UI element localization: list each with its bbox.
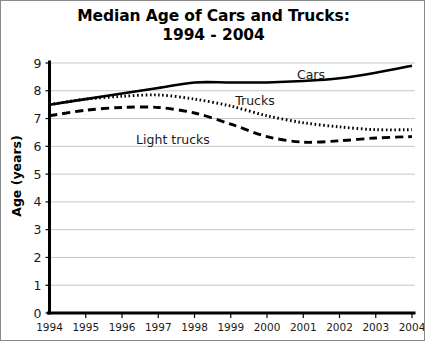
x-tick-label: 1995 <box>72 321 99 333</box>
x-tick-label: 1999 <box>217 321 244 333</box>
y-tick-label: 7 <box>34 111 42 126</box>
series-line-light-trucks <box>50 107 413 142</box>
y-axis-title: Age (years) <box>9 135 24 217</box>
x-tick-label: 1998 <box>181 321 208 333</box>
x-tick-label: 2004 <box>399 321 425 333</box>
x-tick-label: 2001 <box>290 321 317 333</box>
x-tick-label: 2002 <box>326 321 353 333</box>
y-tick-label: 6 <box>34 139 42 154</box>
x-tick-label: 1996 <box>109 321 136 333</box>
chart-figure: Median Age of Cars and Trucks: 1994 - 20… <box>0 0 425 341</box>
y-tick-label: 4 <box>34 194 42 209</box>
x-tick-label: 1997 <box>145 321 172 333</box>
y-tick-label: 5 <box>34 167 42 182</box>
x-tick-labels-group: 1994199519961997199819992000200120022003… <box>36 321 425 333</box>
y-tick-label: 0 <box>34 306 42 321</box>
series-label-cars: Cars <box>297 67 325 82</box>
line-chart-plot: 0123456789 19941995199619971998199920002… <box>1 1 425 341</box>
y-tick-labels-group: 0123456789 <box>34 56 42 321</box>
y-tick-label: 1 <box>34 278 42 293</box>
x-tick-label: 2000 <box>254 321 281 333</box>
y-tick-label: 8 <box>34 83 42 98</box>
series-label-trucks: Trucks <box>234 93 274 108</box>
series-label-light-trucks: Light trucks <box>136 132 210 147</box>
y-tick-label: 3 <box>34 222 42 237</box>
x-tick-label: 1994 <box>36 321 63 333</box>
data-series-group <box>50 66 413 143</box>
y-tick-label: 9 <box>34 56 42 71</box>
y-tick-label: 2 <box>34 250 42 265</box>
x-tick-label: 2003 <box>362 321 389 333</box>
